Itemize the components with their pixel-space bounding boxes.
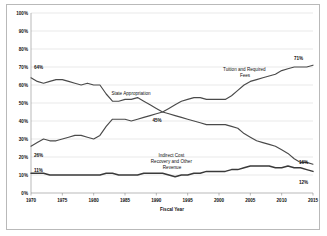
x-tick-label: 1970 bbox=[26, 198, 37, 203]
tuition-annotation: Tuition and Required Fees bbox=[223, 67, 267, 78]
tuition-start-label: 26% bbox=[34, 153, 43, 158]
crossover-label: 45% bbox=[152, 118, 161, 123]
series-line-1 bbox=[31, 65, 313, 146]
state-appropriation-end-label: 16% bbox=[299, 160, 308, 165]
x-tick-label: 1975 bbox=[57, 198, 68, 203]
y-tick-labels-group: 0%10%20%30%40%50%60%70%80%90%100% bbox=[16, 11, 28, 196]
y-tick-label: 20% bbox=[19, 155, 28, 160]
y-tick-label: 50% bbox=[19, 101, 28, 106]
y-tick-label: 70% bbox=[19, 65, 28, 70]
tuition-annotation-line2: Fees bbox=[240, 73, 251, 78]
x-tick-label: 2000 bbox=[214, 198, 225, 203]
x-tick-label: 2005 bbox=[245, 198, 256, 203]
tuition-annotation-line1: Tuition and Required bbox=[223, 67, 266, 72]
x-tick-label: 1985 bbox=[120, 198, 131, 203]
y-tick-label: 90% bbox=[19, 29, 28, 34]
y-tick-label: 80% bbox=[19, 47, 28, 52]
x-tick-label: 2010 bbox=[277, 198, 288, 203]
x-tick-marks-group bbox=[31, 193, 313, 196]
state-appropriation-start-label: 64% bbox=[34, 65, 43, 70]
x-tick-label: 2015 bbox=[308, 198, 319, 203]
x-tick-label: 1990 bbox=[151, 198, 162, 203]
y-tick-label: 100% bbox=[16, 11, 28, 16]
line-chart: 0%10%20%30%40%50%60%70%80%90%100% 197019… bbox=[0, 0, 327, 236]
tuition-end-label: 71% bbox=[294, 56, 303, 61]
state-appropriation-annotation: State Appropriation bbox=[111, 91, 151, 96]
indirect-cost-start-label: 11% bbox=[34, 168, 43, 173]
gridlines-group bbox=[31, 13, 313, 175]
indirect-cost-annotation-line3: Revenue bbox=[163, 165, 182, 170]
x-axis-title: Fiscal Year bbox=[160, 207, 184, 212]
x-tick-label: 1980 bbox=[89, 198, 100, 203]
y-tick-label: 0% bbox=[21, 191, 28, 196]
indirect-cost-annotation: Indirect Cost Recovery and Other Revenue bbox=[151, 153, 193, 170]
chart-container: 0%10%20%30%40%50%60%70%80%90%100% 197019… bbox=[0, 0, 327, 236]
y-tick-label: 60% bbox=[19, 83, 28, 88]
y-tick-label: 40% bbox=[19, 119, 28, 124]
y-tick-label: 10% bbox=[19, 173, 28, 178]
y-tick-label: 30% bbox=[19, 137, 28, 142]
x-tick-label: 1995 bbox=[183, 198, 194, 203]
indirect-cost-annotation-line2: Recovery and Other bbox=[151, 159, 193, 164]
x-tick-labels-group: 1970197519801985199019952000200520102015 bbox=[26, 198, 319, 203]
indirect-cost-annotation-line1: Indirect Cost bbox=[158, 153, 185, 158]
indirect-cost-end-label: 12% bbox=[299, 180, 308, 185]
